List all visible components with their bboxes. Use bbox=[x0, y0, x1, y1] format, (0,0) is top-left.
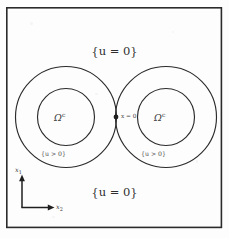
axis-horizontal-arrowhead bbox=[48, 205, 55, 211]
right-inner-circle bbox=[138, 89, 195, 146]
figure-drawing bbox=[0, 0, 229, 238]
region-label-right-omega-complement: Ωc bbox=[154, 113, 165, 123]
region-label-top: {u = 0} bbox=[0, 46, 229, 58]
region-label-left-annulus: {u > 0} bbox=[41, 151, 66, 157]
omega-symbol-right: Ω bbox=[154, 112, 162, 123]
origin-label: x = 0 bbox=[121, 114, 137, 120]
left-inner-circle bbox=[38, 89, 95, 146]
region-label-left-omega-complement: Ωc bbox=[54, 113, 65, 123]
omega-superscript-right: c bbox=[162, 111, 165, 118]
origin-dot bbox=[114, 115, 119, 120]
axis-vertical-arrowhead bbox=[19, 175, 25, 182]
axis-label-x2: x2 bbox=[56, 204, 63, 211]
region-label-right-annulus: {u > 0} bbox=[141, 151, 166, 157]
axis-label-x1-sub: 1 bbox=[19, 169, 22, 175]
omega-symbol-left: Ω bbox=[54, 112, 62, 123]
region-label-bottom: {u = 0} bbox=[0, 187, 229, 199]
left-outer-circle bbox=[16, 67, 117, 168]
omega-superscript-left: c bbox=[62, 111, 65, 118]
figure-container: {u = 0} {u = 0} {u > 0} {u > 0} Ωc Ωc x … bbox=[0, 0, 229, 238]
axis-label-x1: x1 bbox=[15, 167, 22, 174]
axis-label-x2-sub: 2 bbox=[60, 206, 63, 212]
